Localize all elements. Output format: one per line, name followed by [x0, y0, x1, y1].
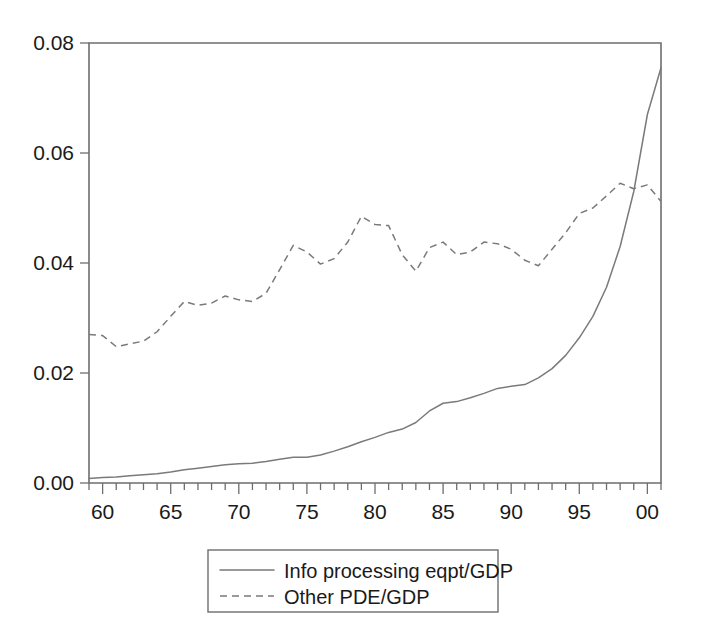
x-axis-tick-labels: 606570758085909500 — [91, 500, 659, 523]
x-tick-label: 95 — [568, 500, 591, 523]
x-tick-label: 60 — [91, 500, 114, 523]
x-tick-label: 90 — [500, 500, 523, 523]
chart-figure: 0.000.020.040.060.08 606570758085909500 … — [0, 0, 703, 636]
plot-border — [89, 43, 661, 483]
x-tick-label: 00 — [636, 500, 659, 523]
y-tick-label: 0.02 — [33, 361, 74, 384]
legend-label-2: Other PDE/GDP — [284, 586, 430, 608]
x-tick-label: 75 — [295, 500, 318, 523]
y-tick-label: 0.00 — [33, 471, 74, 494]
y-axis-tick-labels: 0.000.020.040.060.08 — [33, 31, 74, 494]
y-axis-ticks — [80, 43, 89, 483]
series-line-1 — [89, 68, 661, 479]
x-tick-label: 70 — [227, 500, 250, 523]
y-tick-label: 0.08 — [33, 31, 74, 54]
chart-legend: Info processing eqpt/GDPOther PDE/GDP — [208, 550, 513, 612]
x-tick-label: 65 — [159, 500, 182, 523]
x-tick-label: 80 — [363, 500, 386, 523]
y-tick-label: 0.04 — [33, 251, 74, 274]
x-tick-label: 85 — [431, 500, 454, 523]
chart-svg: 0.000.020.040.060.08 606570758085909500 … — [0, 0, 703, 636]
y-tick-label: 0.06 — [33, 141, 74, 164]
series-line-2 — [89, 183, 661, 346]
legend-label-1: Info processing eqpt/GDP — [284, 560, 513, 582]
plot-frame — [89, 43, 661, 483]
x-axis-ticks — [89, 483, 661, 494]
data-series-layer — [89, 68, 661, 479]
